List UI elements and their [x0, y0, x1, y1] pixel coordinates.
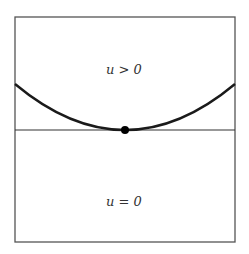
- free-boundary-diagram: u > 0 u = 0: [0, 0, 249, 254]
- contact-point: [121, 126, 129, 134]
- parabolic-free-boundary-curve: [15, 84, 235, 130]
- region-label-positive: u > 0: [106, 62, 142, 77]
- region-label-zero: u = 0: [106, 194, 142, 209]
